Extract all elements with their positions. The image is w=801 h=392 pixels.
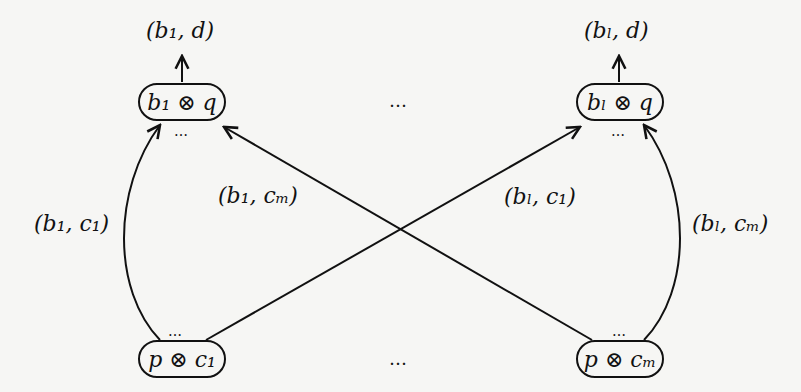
- output-label-top-left: (b₁, d): [146, 20, 214, 42]
- node-p-c1: p ⊗ c₁: [138, 340, 226, 378]
- edge-label-bl-c1: (bₗ, c₁): [504, 186, 576, 208]
- ellipsis-above-bottom-right: …: [612, 324, 627, 338]
- node-bl-q: bₗ ⊗ q: [576, 83, 664, 121]
- node-p-c1-label: p ⊗ c₁: [148, 347, 216, 372]
- edge-label-bl-cm: (bₗ, cₘ): [692, 213, 768, 235]
- ellipsis-below-top-right: …: [611, 124, 626, 138]
- ellipsis-above-bottom-left: …: [168, 324, 183, 338]
- ellipsis-below-top-left: …: [174, 124, 189, 138]
- edge-label-b1-c1: (b₁, c₁): [34, 213, 109, 235]
- node-b1-q-label: b₁ ⊗ q: [147, 90, 216, 115]
- node-p-cm: p ⊗ cₘ: [576, 340, 664, 378]
- node-b1-q: b₁ ⊗ q: [138, 83, 226, 121]
- edge-label-b1-cm: (b₁, cₘ): [218, 185, 298, 207]
- edge-bl-c1: [206, 127, 580, 340]
- edge-bl-cm: [644, 125, 680, 340]
- edge-b1-c1: [124, 125, 160, 340]
- ellipsis-top-row: …: [389, 92, 409, 110]
- edge-b1-cm: [224, 127, 592, 340]
- node-p-cm-label: p ⊗ cₘ: [584, 347, 656, 372]
- ellipsis-bottom-row: …: [389, 350, 409, 368]
- node-bl-q-label: bₗ ⊗ q: [587, 90, 653, 115]
- output-label-top-right: (bₗ, d): [584, 20, 649, 42]
- diagram-edges: [0, 0, 801, 392]
